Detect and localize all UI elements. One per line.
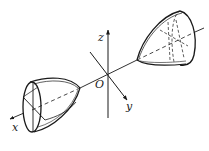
y-axis-label: y [125, 100, 133, 113]
right-sheet [137, 11, 195, 65]
origin-label: O [95, 78, 104, 91]
x-axis-label: x [12, 121, 19, 134]
z-axis-label: z [97, 31, 104, 44]
left-sheet [23, 78, 80, 132]
hyperboloid-diagram: z y x O [0, 0, 209, 151]
